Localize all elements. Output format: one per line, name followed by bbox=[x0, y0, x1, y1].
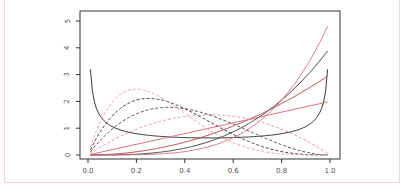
plot-area bbox=[80, 11, 340, 159]
x-tick-label: 0.0 bbox=[82, 167, 93, 175]
curve-beta-2-2 bbox=[90, 115, 327, 154]
curve-beta-0-5-0-5 bbox=[90, 69, 327, 138]
y-tick-label: 1 bbox=[64, 126, 72, 130]
x-axis: 0.00.20.40.60.81.0 bbox=[82, 159, 335, 175]
curve-beta-4-1 bbox=[90, 51, 327, 155]
y-tick-label: 0 bbox=[64, 153, 72, 157]
y-tick-label: 4 bbox=[64, 45, 72, 50]
beta-density-chart: 0.00.20.40.60.81.0 012345 bbox=[0, 0, 404, 189]
y-tick-label: 2 bbox=[64, 99, 72, 103]
y-tick-label: 5 bbox=[64, 19, 72, 23]
curves bbox=[90, 26, 327, 155]
x-tick-label: 0.6 bbox=[228, 167, 240, 175]
x-tick-label: 0.2 bbox=[131, 167, 142, 175]
x-tick-label: 0.4 bbox=[179, 167, 191, 175]
y-tick-label: 3 bbox=[64, 72, 72, 76]
x-tick-label: 1.0 bbox=[324, 167, 335, 175]
y-axis: 012345 bbox=[64, 19, 81, 157]
x-tick-label: 0.8 bbox=[276, 167, 287, 175]
